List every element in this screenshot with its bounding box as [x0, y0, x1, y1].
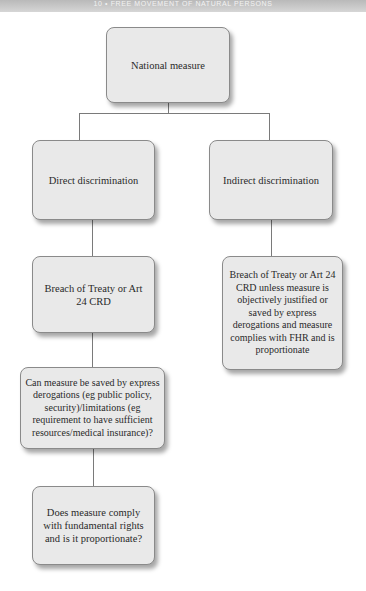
node-label: Direct discrimination [49, 174, 139, 187]
node-indirect-breach: Breach of Treaty or Art 24 CRD unless me… [222, 256, 343, 370]
node-direct-discrimination: Direct discrimination [32, 140, 155, 220]
node-label: Breach of Treaty or Art 24 CRD [43, 282, 144, 308]
node-direct-breach: Breach of Treaty or Art 24 CRD [32, 256, 155, 333]
node-indirect-discrimination: Indirect discrimination [209, 140, 333, 220]
running-header: 10 • FREE MOVEMENT OF NATURAL PERSONS [0, 0, 366, 12]
node-fundamental-rights-question: Does measure comply with fundamental rig… [32, 486, 155, 565]
connector-breach-to-derogations [92, 333, 93, 367]
node-label: National measure [131, 59, 205, 72]
connector-to-indirect [269, 113, 270, 140]
connector-indirect-to-breach [271, 220, 272, 256]
node-derogations-question: Can measure be saved by express derogati… [20, 367, 165, 449]
node-label: Can measure be saved by express derogati… [25, 377, 160, 440]
connector-root-down [168, 103, 169, 113]
connector-to-direct [79, 113, 80, 140]
connector-direct-to-breach [92, 220, 93, 256]
node-label: Breach of Treaty or Art 24 CRD unless me… [226, 269, 339, 357]
node-label: Does measure comply with fundamental rig… [41, 506, 146, 545]
connector-branch [79, 113, 270, 114]
running-title: 10 • FREE MOVEMENT OF NATURAL PERSONS [94, 0, 273, 7]
node-national-measure: National measure [106, 27, 230, 103]
node-label: Indirect discrimination [223, 174, 319, 187]
connector-derogations-to-rights [93, 449, 94, 486]
